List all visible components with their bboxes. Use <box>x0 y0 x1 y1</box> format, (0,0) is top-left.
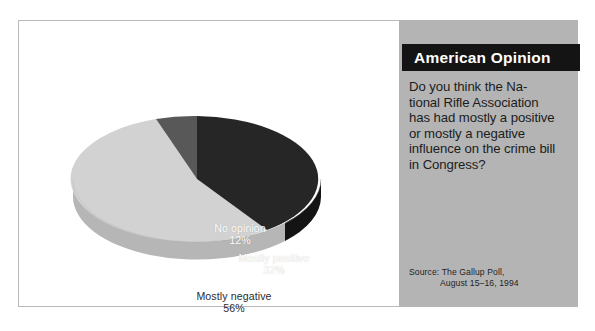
source-credit-line-2: August 15–16, 1994 <box>409 278 574 289</box>
source-credit: Source: The Gallup Poll, August 15–16, 1… <box>409 267 574 288</box>
pie-label-no-opinion: No opinion 12% <box>214 222 266 247</box>
poll-question: Do you think the Na- tional Rifle Associ… <box>409 79 581 173</box>
pie-label-no-opinion-value: 12% <box>214 234 266 246</box>
pie-label-mostly-negative-value: 56% <box>196 302 271 314</box>
poll-question-line-4: or mostly a negative <box>409 126 581 142</box>
poll-question-line-3: has had mostly a positive <box>409 110 581 126</box>
poll-question-line-2: tional Rifle Association <box>409 95 581 111</box>
pie-chart: Mostly positive 32% Mostly negative 56% … <box>52 104 342 269</box>
pie-label-mostly-positive: Mostly positive 32% <box>239 252 310 277</box>
pie-label-no-opinion-text: No opinion <box>214 222 266 234</box>
infographic-root: Mostly positive 32% Mostly negative 56% … <box>0 0 595 331</box>
source-credit-line-1: Source: The Gallup Poll, <box>409 267 574 278</box>
pie-label-mostly-negative: Mostly negative 56% <box>196 290 271 315</box>
pie-label-mostly-negative-text: Mostly negative <box>196 290 271 302</box>
pie-chart-svg <box>52 104 342 269</box>
poll-question-line-6: in Congress? <box>409 157 581 173</box>
poll-question-line-5: influence on the crime bill <box>409 141 581 157</box>
panel-header-bar: American Opinion <box>402 44 580 71</box>
pie-label-mostly-positive-value: 32% <box>239 264 310 276</box>
poll-question-line-1: Do you think the Na- <box>409 79 581 95</box>
panel-title: American Opinion <box>414 49 551 67</box>
pie-label-mostly-positive-text: Mostly positive <box>239 252 310 264</box>
